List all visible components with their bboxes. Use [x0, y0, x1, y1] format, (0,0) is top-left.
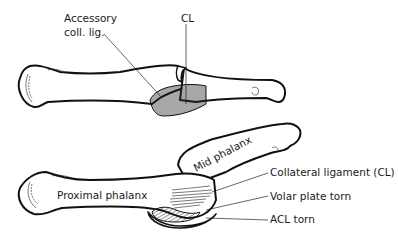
bottom-figure: Proximal phalanx Mid phalanx Collateral … — [19, 123, 395, 228]
finger-ligament-diagram: Accessory coll. lig. CL Proximal p — [0, 0, 398, 243]
label-volar-plate-torn: Volar plate torn — [270, 190, 351, 202]
label-proximal-phalanx: Proximal phalanx — [57, 189, 147, 201]
label-collateral-ligament: Collateral ligament (CL) — [270, 166, 395, 178]
top-figure: Accessory coll. lig. CL — [19, 12, 285, 116]
label-accessory-line1: Accessory — [64, 12, 117, 24]
label-accessory-line2: coll. lig. — [64, 26, 105, 38]
label-cl: CL — [181, 12, 194, 24]
label-acl-torn: ACL torn — [270, 213, 315, 225]
